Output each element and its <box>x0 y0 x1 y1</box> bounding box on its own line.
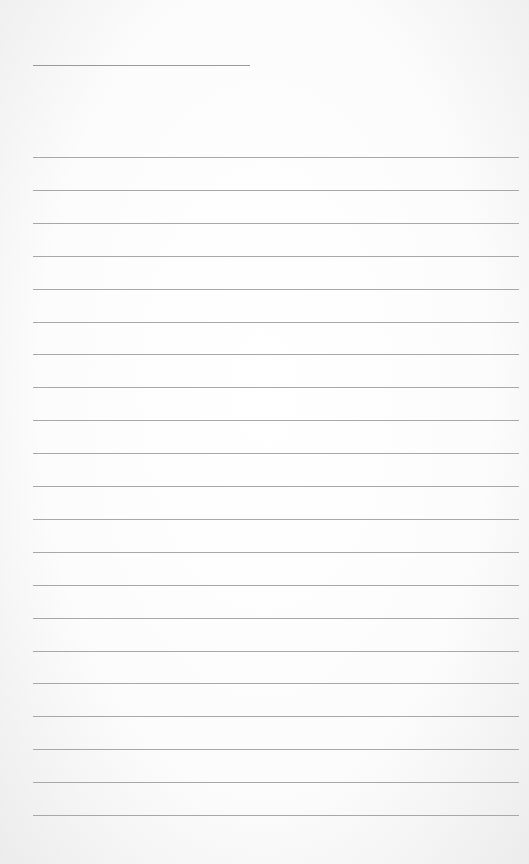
ruled-line <box>33 453 519 454</box>
ruled-line <box>33 716 519 717</box>
ruled-line <box>33 519 519 520</box>
ruled-line <box>33 289 519 290</box>
ruled-line <box>33 815 519 816</box>
ruled-line <box>33 585 519 586</box>
ruled-line <box>33 651 519 652</box>
ruled-line <box>33 782 519 783</box>
ruled-line <box>33 683 519 684</box>
ruled-line <box>33 157 519 158</box>
ruled-line <box>33 749 519 750</box>
lined-paper-sheet <box>0 0 529 864</box>
ruled-line <box>33 190 519 191</box>
ruled-line <box>33 618 519 619</box>
ruled-line <box>33 387 519 388</box>
ruled-line <box>33 420 519 421</box>
ruled-line <box>33 552 519 553</box>
ruled-line <box>33 322 519 323</box>
ruled-line <box>33 223 519 224</box>
ruled-line <box>33 256 519 257</box>
ruled-line <box>33 354 519 355</box>
title-underline <box>33 65 250 66</box>
ruled-line <box>33 486 519 487</box>
